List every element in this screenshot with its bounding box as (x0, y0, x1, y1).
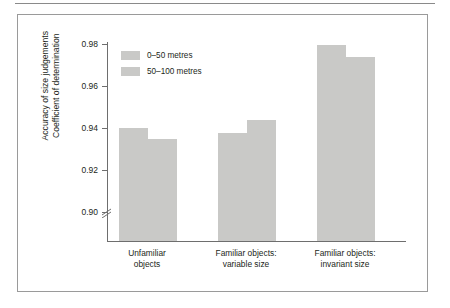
x-category-label-line-2: invariant size (285, 259, 405, 270)
x-category-label-familiar-invariant-size: Familiar objects: invariant size (285, 248, 405, 270)
bar-familiar-variable-size-50-100 (247, 120, 276, 241)
y-tick-mark-0.94 (102, 128, 107, 129)
y-tick-mark-0.96 (102, 86, 107, 87)
y-axis-title-line-2: Coefficient of determination (51, 0, 62, 181)
bar-unfamiliar-objects-50-100 (148, 139, 177, 242)
figure-page: Accuracy of size judgements Coefficient … (0, 0, 450, 308)
legend-item-50-100-metres: 50–100 metres (121, 65, 202, 77)
bar-familiar-invariant-size-50-100 (346, 57, 375, 241)
y-tick-label-0.98: 0.98 (64, 40, 98, 49)
y-tick-label-0.94: 0.94 (64, 124, 98, 133)
y-axis-title-line-1: Accuracy of size judgements (40, 0, 51, 181)
y-tick-mark-0.98 (102, 44, 107, 45)
y-tick-label-0.92: 0.92 (64, 166, 98, 175)
legend-swatch-0-50-metres (121, 51, 140, 60)
figure-frame: Accuracy of size judgements Coefficient … (17, 14, 428, 292)
legend-swatch-50-100-metres (121, 67, 140, 76)
legend-label-50-100-metres: 50–100 metres (147, 67, 202, 76)
bar-chart-plot-area: Accuracy of size judgements Coefficient … (18, 15, 429, 293)
bar-unfamiliar-objects-0-50 (119, 128, 148, 241)
top-divider-rule (15, 3, 435, 4)
chart-legend: 0–50 metres 50–100 metres (121, 49, 202, 81)
x-axis-line (107, 241, 406, 242)
y-tick-mark-0.92 (102, 170, 107, 171)
axis-break-icon (102, 206, 113, 218)
legend-label-0-50-metres: 0–50 metres (147, 51, 193, 60)
y-tick-label-0.96: 0.96 (64, 82, 98, 91)
legend-item-0-50-metres: 0–50 metres (121, 49, 202, 61)
y-tick-label-0.90: 0.90 (64, 208, 98, 217)
bar-familiar-variable-size-0-50 (218, 133, 247, 241)
y-axis-title: Accuracy of size judgements Coefficient … (40, 0, 61, 181)
x-category-label-line-1: Familiar objects: (285, 248, 405, 259)
bar-familiar-invariant-size-0-50 (317, 45, 346, 241)
